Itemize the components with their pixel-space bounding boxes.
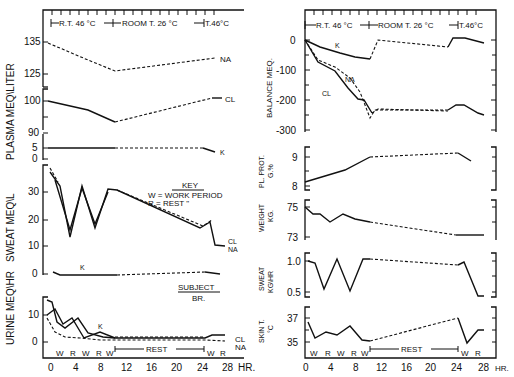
svg-text:12: 12: [376, 362, 388, 373]
svg-text:100: 100: [24, 95, 41, 106]
svg-text:KG\HR: KG\HR: [267, 271, 274, 293]
svg-text:20: 20: [171, 362, 183, 373]
svg-text:G.%: G.%: [267, 164, 274, 178]
svg-text:W: W: [207, 349, 215, 358]
condition-bar-right: R.T. 46 °C ROOM T. 26 °C T.46°C: [305, 21, 483, 30]
condition-t46: T.46°C: [205, 19, 229, 28]
svg-text:90: 90: [28, 127, 40, 138]
svg-text:W: W: [337, 349, 345, 358]
svg-text:HR.: HR.: [238, 362, 255, 373]
periods-right: W R W R W REST W R: [310, 343, 481, 358]
svg-text:5: 5: [32, 142, 38, 153]
svg-text:16: 16: [401, 362, 413, 373]
urine-axis-label: URINE MEQ\HR: [5, 271, 16, 345]
svg-text:ROOM T. 26 °C: ROOM T. 26 °C: [378, 21, 434, 30]
svg-text:KEY: KEY: [182, 181, 199, 190]
svg-text:125: 125: [24, 68, 41, 79]
x-axis-left: 0 4 8 12 16 20 24 28 HR.: [48, 362, 255, 373]
svg-text:CL: CL: [228, 238, 237, 245]
svg-text:K: K: [80, 264, 85, 271]
svg-text:SKIN T.: SKIN T.: [258, 319, 265, 343]
svg-text:R: R: [351, 349, 357, 358]
svg-text:0: 0: [32, 153, 38, 164]
svg-text:CL: CL: [322, 90, 331, 97]
svg-text:4: 4: [328, 362, 334, 373]
svg-text:W: W: [361, 349, 369, 358]
svg-text:8: 8: [292, 181, 298, 192]
svg-text:10: 10: [28, 309, 40, 320]
svg-text:135: 135: [24, 36, 41, 47]
svg-text:CL: CL: [225, 95, 236, 104]
svg-text:28: 28: [478, 362, 490, 373]
svg-text:-200: -200: [276, 95, 296, 106]
svg-text:NA: NA: [345, 76, 355, 83]
svg-text:28: 28: [222, 362, 234, 373]
svg-text:K: K: [335, 42, 340, 49]
left-column: R.T. 46 °C ROOM T. 26 °C T.46°C 135 125 …: [5, 10, 255, 373]
svg-text:0.5: 0.5: [287, 287, 301, 298]
svg-text:35: 35: [287, 337, 299, 348]
svg-text:16: 16: [146, 362, 158, 373]
balance-axis-label: BALANCE MEQ.: [265, 58, 274, 118]
svg-text:W: W: [82, 349, 90, 358]
svg-text:NA: NA: [235, 343, 247, 352]
svg-text:-300: -300: [276, 125, 296, 136]
subject-label: SUBJECT BR.: [178, 283, 220, 303]
svg-text:W: W: [106, 349, 114, 358]
svg-text:8: 8: [353, 362, 359, 373]
sweat-axis-label: SWEAT MEQ\L: [5, 193, 16, 262]
svg-text:R.T. 46 °C: R.T. 46 °C: [316, 21, 353, 30]
svg-text:0: 0: [32, 336, 38, 347]
svg-text:37: 37: [287, 313, 299, 324]
svg-text:PL. PROT.: PL. PROT.: [258, 155, 265, 188]
svg-text:W: W: [461, 349, 469, 358]
svg-text:NA: NA: [228, 246, 238, 253]
svg-text:°C: °C: [267, 325, 274, 333]
svg-text:REST: REST: [401, 345, 422, 354]
svg-text:4: 4: [73, 362, 79, 373]
svg-text:R: R: [220, 349, 226, 358]
svg-text:0: 0: [290, 35, 296, 46]
svg-text:BR.: BR.: [192, 294, 205, 303]
condition-room26: ROOM T. 26 °C: [122, 19, 178, 28]
svg-text:75: 75: [287, 202, 299, 213]
svg-text:73: 73: [287, 232, 299, 243]
svg-text:0: 0: [48, 362, 54, 373]
svg-text:HR.: HR.: [495, 364, 509, 373]
svg-text:0: 0: [303, 362, 309, 373]
plasma-axis-label: PLASMA MEQ\LITER: [5, 63, 16, 160]
svg-text:K: K: [98, 323, 103, 330]
svg-text:20: 20: [425, 362, 437, 373]
svg-text:30: 30: [28, 186, 40, 197]
svg-text:R: R: [70, 349, 76, 358]
svg-text:K: K: [220, 149, 225, 156]
top-ticks-left: [52, 10, 214, 15]
x-axis-right: 0 4 8 12 16 20 24 28 HR.: [303, 362, 509, 373]
svg-text:1.0: 1.0: [287, 256, 301, 267]
svg-text:SUBJECT: SUBJECT: [178, 283, 215, 292]
condition-rt46: R.T. 46 °C: [59, 19, 96, 28]
periods-left: W R W R W REST W R: [56, 343, 226, 358]
svg-text:24: 24: [197, 362, 209, 373]
svg-text:8: 8: [98, 362, 104, 373]
svg-text:12: 12: [121, 362, 133, 373]
svg-text:REST: REST: [146, 345, 167, 354]
svg-text:10: 10: [28, 240, 40, 251]
svg-text:9: 9: [292, 152, 298, 163]
right-column: R.T. 46 °C ROOM T. 26 °C T.46°C 0 -100 -…: [258, 10, 509, 373]
svg-text:T.46°C: T.46°C: [459, 21, 483, 30]
svg-text:R: R: [96, 349, 102, 358]
svg-text:W: W: [56, 349, 64, 358]
svg-text:20: 20: [28, 214, 40, 225]
svg-text:R: R: [325, 349, 331, 358]
svg-text:NA: NA: [220, 55, 232, 64]
svg-text:R: R: [475, 349, 481, 358]
svg-text:0: 0: [32, 268, 38, 279]
svg-text:R = REST ": R = REST ": [148, 199, 189, 208]
condition-bar-left: R.T. 46 °C ROOM T. 26 °C T.46°C: [51, 19, 229, 28]
svg-text:-100: -100: [276, 65, 296, 76]
svg-text:KG.: KG.: [267, 210, 274, 222]
physiology-figure: R.T. 46 °C ROOM T. 26 °C T.46°C 135 125 …: [0, 0, 514, 377]
svg-text:SWEAT: SWEAT: [258, 266, 265, 291]
svg-text:W: W: [310, 349, 318, 358]
